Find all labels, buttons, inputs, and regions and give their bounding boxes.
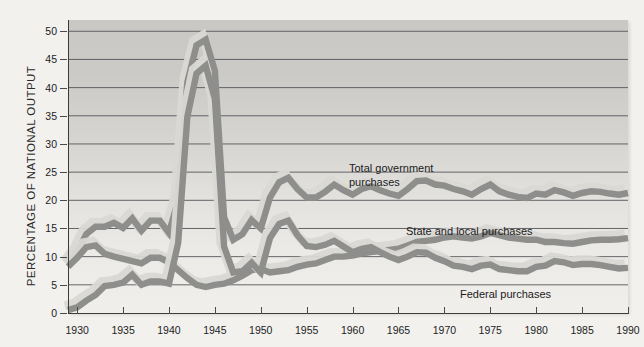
x-axis-line (68, 313, 629, 314)
state-and-local-purchases-label: State and local purchases (406, 225, 533, 239)
y-tick-label: 10 (27, 251, 57, 263)
x-tick-label: 1970 (421, 324, 467, 336)
x-tick-label: 1935 (100, 324, 146, 336)
y-tick-mark (60, 285, 67, 286)
x-tick-mark (582, 307, 583, 314)
x-tick-mark (398, 307, 399, 314)
y-tick-label: 50 (27, 25, 57, 37)
y-tick-label: 0 (27, 307, 57, 319)
total-government-purchases-label: Total government purchases (349, 162, 433, 189)
x-tick-mark (444, 307, 445, 314)
x-tick-mark (215, 307, 216, 314)
series-band (68, 40, 628, 265)
y-tick-mark (60, 200, 67, 201)
x-tick-label: 1990 (605, 324, 644, 336)
y-tick-mark (60, 88, 67, 89)
y-tick-label: 40 (27, 82, 57, 94)
x-tick-label: 1965 (375, 324, 421, 336)
y-tick-label: 15 (27, 222, 57, 234)
y-tick-mark (60, 144, 67, 145)
y-tick-label: 30 (27, 138, 57, 150)
x-tick-label: 1960 (330, 324, 376, 336)
series-1 (65, 36, 628, 265)
y-tick-mark (60, 313, 67, 314)
x-tick-label: 1945 (192, 324, 238, 336)
y-tick-mark (60, 116, 67, 117)
x-tick-mark (353, 307, 354, 314)
y-tick-mark (60, 59, 67, 60)
y-axis-line (68, 20, 69, 314)
y-tick-mark (60, 31, 67, 32)
y-tick-label: 20 (27, 194, 57, 206)
x-tick-label: 1955 (284, 324, 330, 336)
y-tick-mark (60, 257, 67, 258)
x-tick-mark (261, 307, 262, 314)
x-tick-label: 1950 (238, 324, 284, 336)
y-tick-label: 35 (27, 110, 57, 122)
y-tick-label: 25 (27, 166, 57, 178)
x-tick-mark (169, 307, 170, 314)
plot-area (68, 20, 628, 313)
x-tick-mark (536, 307, 537, 314)
series-bands (68, 20, 628, 313)
x-tick-label: 1980 (513, 324, 559, 336)
federal-purchases-label: Federal purchases (460, 288, 551, 302)
x-tick-label: 1985 (559, 324, 605, 336)
y-tick-label: 5 (27, 279, 57, 291)
y-tick-mark (60, 228, 67, 229)
x-tick-mark (77, 307, 78, 314)
y-tick-label: 45 (27, 53, 57, 65)
x-tick-mark (628, 307, 629, 314)
x-tick-mark (123, 307, 124, 314)
x-tick-label: 1940 (146, 324, 192, 336)
x-tick-mark (490, 307, 491, 314)
x-tick-mark (307, 307, 308, 314)
x-tick-label: 1930 (54, 324, 100, 336)
y-tick-mark (60, 172, 67, 173)
x-tick-label: 1975 (467, 324, 513, 336)
